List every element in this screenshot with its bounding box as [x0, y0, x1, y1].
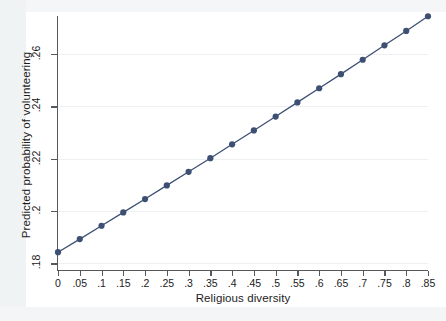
data-point-marker [142, 196, 148, 202]
data-point-marker [77, 236, 83, 242]
series-layer [0, 0, 446, 321]
data-point-marker [294, 99, 300, 105]
data-point-marker [164, 182, 170, 188]
data-point-marker [185, 169, 191, 175]
data-point-marker [273, 113, 279, 119]
data-point-marker [425, 13, 431, 19]
data-point-marker [316, 85, 322, 91]
chart-figure: Predicted probability of volunteering Re… [0, 0, 446, 321]
series-line [58, 16, 428, 252]
data-point-marker [381, 42, 387, 48]
data-point-marker [338, 71, 344, 77]
data-point-marker [55, 249, 61, 255]
data-point-marker [229, 141, 235, 147]
data-point-marker [360, 57, 366, 63]
data-point-marker [251, 127, 257, 133]
data-point-marker [98, 223, 104, 229]
data-point-marker [120, 209, 126, 215]
data-point-marker [403, 28, 409, 34]
data-point-marker [207, 155, 213, 161]
